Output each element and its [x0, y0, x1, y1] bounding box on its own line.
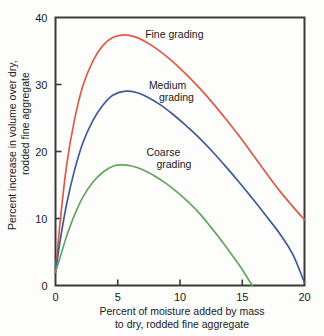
chart-svg: 05101520010203040 Fine gradingMediumgrad… [0, 0, 324, 336]
tick-marks-group [56, 85, 243, 286]
x-tick-label: 0 [52, 291, 58, 303]
x-tick-label: 10 [174, 291, 186, 303]
curve-coarse-grading [56, 165, 253, 286]
chart-figure: 05101520010203040 Fine gradingMediumgrad… [0, 0, 324, 336]
svg-text:Percent of moisture added by m: Percent of moisture added by mass [99, 305, 264, 317]
series-label-medium-grading: Medium [149, 79, 187, 91]
x-tick-label: 5 [115, 291, 121, 303]
svg-text:Percent increase in volume ove: Percent increase in volume over dry, [6, 60, 18, 230]
curve-medium-grading [56, 91, 305, 283]
y-tick-label: 30 [35, 79, 47, 91]
y-tick-label: 0 [41, 280, 47, 292]
y-tick-label: 40 [35, 12, 47, 24]
x-tick-label: 15 [236, 291, 248, 303]
svg-text:rodded fine aggregate: rodded fine aggregate [19, 72, 31, 175]
x-tick-label: 20 [298, 291, 310, 303]
svg-text:to dry, rodded fine aggregate: to dry, rodded fine aggregate [115, 318, 249, 330]
series-annotations-group: Fine gradingMediumgradingCoarsegrading [145, 28, 204, 170]
y-tick-label: 20 [35, 146, 47, 158]
y-tick-label: 10 [35, 213, 47, 225]
series-label-medium-grading: grading [159, 91, 194, 103]
series-label-fine-grading: Fine grading [145, 28, 204, 40]
series-label-coarse-grading: Coarse [146, 146, 180, 158]
x-axis-title: Percent of moisture added by mass to dry… [99, 305, 264, 330]
series-label-coarse-grading: grading [156, 158, 191, 170]
y-axis-title: Percent increase in volume over dry, rod… [6, 60, 31, 230]
